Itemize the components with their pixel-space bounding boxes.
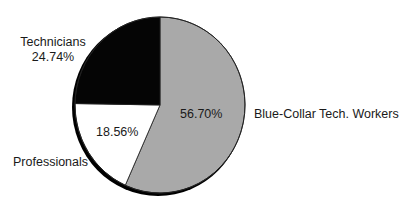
blue-collar-label: Blue-Collar Tech. Workers bbox=[254, 107, 399, 122]
pie-chart bbox=[0, 0, 403, 210]
pie-slices bbox=[75, 17, 245, 193]
technicians-label: Technicians 24.74% bbox=[14, 35, 92, 65]
professionals-percent: 18.56% bbox=[96, 125, 138, 140]
technicians-name: Technicians bbox=[14, 35, 92, 50]
professionals-label: Professionals bbox=[13, 155, 88, 170]
blue-collar-percent: 56.70% bbox=[180, 107, 222, 122]
technicians-percent: 24.74% bbox=[14, 50, 92, 65]
